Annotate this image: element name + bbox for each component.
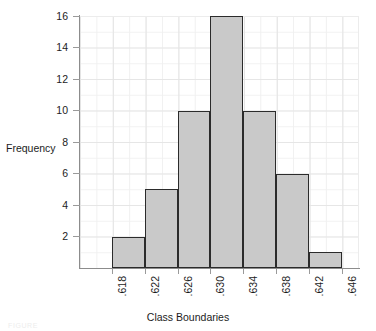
histogram-bar <box>210 16 243 268</box>
figure-caption: FIGURE <box>8 322 38 329</box>
x-axis-tick-label: .638 <box>281 276 292 296</box>
plot-border-right <box>358 16 359 268</box>
histogram-bar <box>309 252 342 268</box>
y-axis-tick <box>73 16 80 17</box>
x-axis-tick-label: .626 <box>183 276 194 296</box>
x-axis-tick <box>342 269 343 274</box>
y-axis-tick <box>73 205 80 206</box>
x-axis-tick <box>145 269 146 274</box>
histogram-figure: Frequency 246810121416 .618.622.626.630.… <box>0 0 376 331</box>
y-axis-tick-label: 6 <box>38 168 68 179</box>
histogram-bar <box>178 111 211 269</box>
x-axis-tick-label: .642 <box>314 276 325 296</box>
histogram-bar <box>243 111 276 269</box>
y-axis-tick-label: 16 <box>38 11 68 22</box>
x-axis-tick-label: .646 <box>347 276 358 296</box>
y-axis-tick <box>73 142 80 143</box>
histogram-bar <box>145 189 178 268</box>
y-axis-tick-label: 10 <box>38 105 68 116</box>
y-axis-tick <box>73 47 80 48</box>
histogram-bar <box>276 174 309 269</box>
y-axis-tick <box>73 79 80 80</box>
y-axis-tick-label: 4 <box>38 200 68 211</box>
x-axis-title: Class Boundaries <box>0 311 376 323</box>
x-axis-tick-label: .618 <box>117 276 128 296</box>
y-axis-tick <box>73 173 80 174</box>
y-axis-tick <box>73 236 80 237</box>
x-axis-tick <box>112 269 113 274</box>
x-axis-tick <box>276 269 277 274</box>
x-axis-tick <box>210 269 211 274</box>
x-axis-tick <box>309 269 310 274</box>
x-axis-tick-label: .630 <box>215 276 226 296</box>
x-axis-tick-label: .634 <box>248 276 259 296</box>
x-axis-line <box>79 268 360 269</box>
x-axis-tick <box>243 269 244 274</box>
y-axis-tick-label: 12 <box>38 74 68 85</box>
y-axis-tick-label: 14 <box>38 42 68 53</box>
histogram-bar <box>112 237 145 269</box>
x-axis-tick-label: .622 <box>150 276 161 296</box>
plot-area <box>80 16 359 268</box>
y-axis-tick <box>73 110 80 111</box>
x-axis-tick <box>178 269 179 274</box>
y-axis-tick-label: 2 <box>38 231 68 242</box>
y-axis-tick-label: 8 <box>38 137 68 148</box>
